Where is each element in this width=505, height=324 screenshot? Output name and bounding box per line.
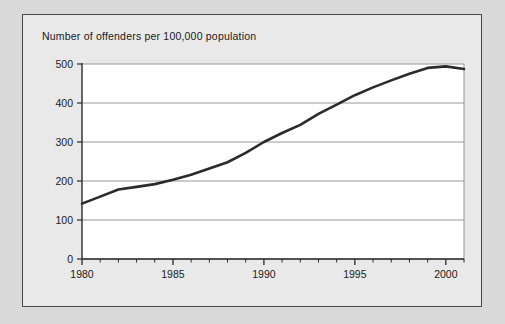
x-tick-label: 2000 [434,268,458,280]
y-tick-label: 500 [55,58,73,70]
plot-area-background [82,64,464,259]
y-tick-label: 400 [55,97,73,109]
line-chart-plot: 010020030040050019801985199019952000 [23,15,481,306]
chart-panel: Number of offenders per 100,000 populati… [22,14,482,307]
y-tick-label: 300 [55,136,73,148]
x-tick-label: 1995 [343,268,367,280]
x-tick-label: 1980 [70,268,94,280]
y-tick-label: 100 [55,214,73,226]
y-tick-label: 200 [55,175,73,187]
y-tick-label: 0 [67,253,73,265]
x-tick-label: 1985 [161,268,185,280]
chart-figure: Number of offenders per 100,000 populati… [0,0,505,324]
x-tick-label: 1990 [252,268,276,280]
